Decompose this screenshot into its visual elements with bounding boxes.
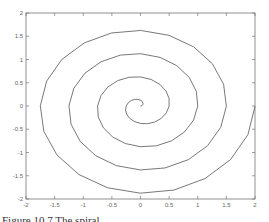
x-tick-label: -0.5: [107, 202, 118, 208]
y-axis-ticks: -2-1.5-1-0.500.511.52: [13, 10, 255, 202]
x-tick-label: 0.5: [165, 202, 174, 208]
x-tick-label: 1.5: [222, 202, 231, 208]
y-tick-label: 0.5: [15, 80, 24, 86]
figure-caption: Figure 10.7 The spiral ...: [2, 214, 111, 222]
x-tick-label: 0: [139, 202, 143, 208]
y-tick-label: -1.5: [13, 173, 24, 179]
x-tick-label: 1: [196, 202, 200, 208]
y-tick-label: -2: [18, 196, 24, 202]
x-axis-ticks: -2-1.5-1-0.500.511.52: [23, 13, 257, 208]
x-tick-label: -1: [81, 202, 87, 208]
y-tick-label: 1: [20, 57, 24, 63]
spiral-chart: -2-1.5-1-0.500.511.52 -2-1.5-1-0.500.511…: [0, 0, 269, 222]
spiral-line: [40, 30, 255, 193]
y-tick-label: 0: [20, 103, 24, 109]
x-tick-label: 2: [253, 202, 257, 208]
x-tick-label: -1.5: [49, 202, 60, 208]
y-tick-label: -1: [18, 150, 24, 156]
x-tick-label: -2: [23, 202, 29, 208]
y-tick-label: 2: [20, 10, 24, 16]
y-tick-label: 1.5: [15, 33, 24, 39]
y-tick-label: -0.5: [13, 126, 24, 132]
